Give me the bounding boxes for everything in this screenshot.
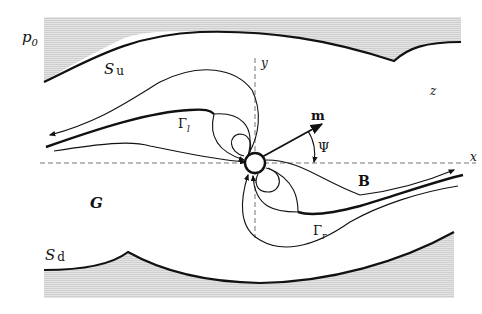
z-axis-label: z [429, 84, 437, 98]
moment-label: m [311, 108, 325, 123]
field-line-right-mid [253, 176, 298, 212]
lower-surface-label: Sd [45, 246, 65, 264]
angle-label: Ψ [318, 140, 329, 155]
y-axis-label: y [260, 56, 268, 70]
dipole-field-diagram: p0 Su Sd G x y z m Ψ B Γl Γr [0, 0, 482, 314]
angle-arc [308, 131, 315, 162]
lower-shaded-region [44, 232, 454, 298]
separatrix-right [298, 175, 463, 214]
upper-surface-label: Su [104, 60, 124, 78]
field-line-left-drop [212, 114, 244, 160]
field-line-right-upper-return [268, 168, 298, 212]
gamma-left-label: Γl [178, 116, 190, 134]
field-line-left-lower [54, 143, 245, 162]
field-label: B [358, 173, 370, 189]
gamma-right-label: Γr [313, 223, 327, 241]
pressure-label: p0 [22, 28, 39, 48]
region-label: G [90, 194, 103, 212]
field-line-left-outer [50, 70, 258, 155]
x-axis-label: x [470, 150, 477, 164]
field-line-left-loop [231, 134, 250, 156]
